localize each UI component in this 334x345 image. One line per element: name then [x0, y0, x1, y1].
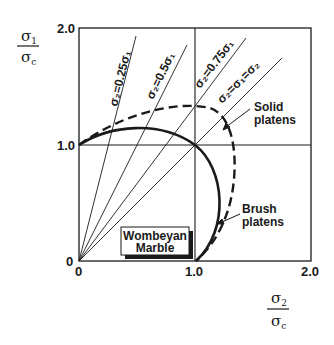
svg-text:σc: σc — [271, 312, 286, 331]
svg-text:1.0: 1.0 — [57, 138, 75, 153]
svg-text:σ₂=0.25σ₁: σ₂=0.25σ₁ — [106, 49, 133, 108]
svg-text:0: 0 — [66, 254, 73, 269]
svg-text:σc: σc — [21, 48, 36, 67]
svg-text:platens: platens — [242, 215, 284, 229]
svg-text:Brush: Brush — [242, 202, 277, 216]
svg-text:σ1: σ1 — [21, 27, 37, 46]
svg-text:σ₂=0.5σ₁: σ₂=0.5σ₁ — [143, 50, 178, 101]
svg-text:Solid: Solid — [254, 100, 283, 114]
biaxial-strength-diagram: 2.0 1.0 0 0 1.0 2.0 σ1 σc σ2 σc σ₂=0.25σ… — [0, 0, 334, 345]
y-tick-labels: 2.0 1.0 0 — [57, 21, 75, 269]
svg-text:Marble: Marble — [136, 241, 175, 255]
svg-text:2.0: 2.0 — [301, 264, 319, 279]
y-axis-label: σ1 σc — [17, 27, 39, 67]
svg-text:1.0: 1.0 — [185, 264, 203, 279]
material-box: Wombeyan Marble — [121, 227, 193, 259]
svg-text:2.0: 2.0 — [57, 21, 75, 36]
x-axis-label: σ2 σc — [267, 289, 289, 331]
svg-text:0: 0 — [75, 264, 82, 279]
solid-platens-label: Solid platens — [254, 100, 296, 127]
x-tick-labels: 0 1.0 2.0 — [75, 264, 319, 279]
brush-platens-label: Brush platens — [242, 202, 284, 229]
svg-text:σ2: σ2 — [271, 289, 287, 308]
svg-text:platens: platens — [254, 113, 296, 127]
